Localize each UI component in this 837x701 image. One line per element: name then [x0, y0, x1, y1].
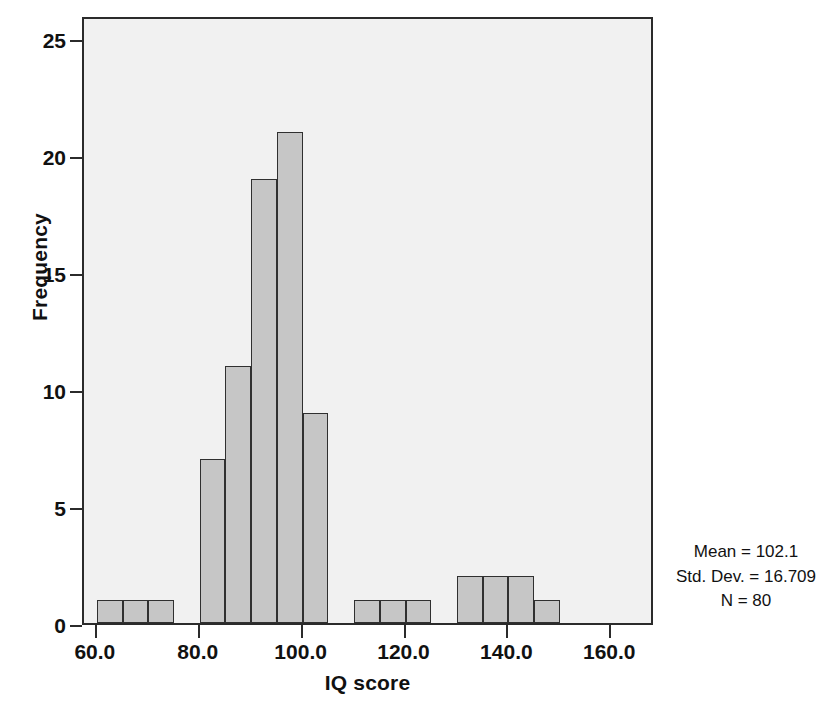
y-axis-tick-label: 20 [43, 147, 66, 168]
histogram-figure: Frequency 0510152025 IQ score 60.080.010… [0, 0, 837, 701]
y-axis-tick-label: 15 [43, 264, 66, 285]
histogram-bar [406, 600, 432, 623]
histogram-bar [277, 132, 303, 623]
x-axis-tick-mark [404, 625, 406, 638]
x-axis-tick-mark [95, 625, 97, 638]
histogram-bar [148, 600, 174, 623]
stat-std-dev: Std. Dev. = 16.709 [660, 565, 832, 590]
x-axis-tick-label: 160.0 [583, 641, 636, 662]
x-axis: IQ score 60.080.0100.0120.0140.0160.0 [0, 625, 837, 701]
x-axis-tick-label: 140.0 [480, 641, 533, 662]
histogram-bar [97, 600, 123, 623]
histogram-bar [508, 576, 534, 623]
plot-area [82, 17, 653, 625]
x-axis-tick-label: 80.0 [177, 641, 218, 662]
histogram-bar [123, 600, 149, 623]
stat-n: N = 80 [660, 589, 832, 614]
histogram-bar [483, 576, 509, 623]
histogram-bar [200, 459, 226, 623]
y-axis-tick-mark [70, 508, 82, 510]
y-axis-tick-mark [70, 157, 82, 159]
y-axis-tick-mark [70, 40, 82, 42]
x-axis-tick-label: 100.0 [274, 641, 327, 662]
x-axis-tick-mark [301, 625, 303, 638]
x-axis-tick-mark [609, 625, 611, 638]
histogram-bar [303, 413, 329, 623]
bars-layer [84, 19, 651, 623]
y-axis: Frequency 0510152025 [0, 0, 82, 701]
y-axis-tick-label: 10 [43, 381, 66, 402]
statistics-annotation: Mean = 102.1 Std. Dev. = 16.709 N = 80 [660, 540, 832, 614]
x-axis-tick-mark [198, 625, 200, 638]
stat-mean: Mean = 102.1 [660, 540, 832, 565]
histogram-bar [457, 576, 483, 623]
histogram-bar [534, 600, 560, 623]
y-axis-tick-label: 25 [43, 30, 66, 51]
y-axis-tick-label: 5 [54, 498, 66, 519]
histogram-bar [251, 179, 277, 623]
x-axis-tick-label: 120.0 [377, 641, 430, 662]
y-axis-tick-mark [70, 274, 82, 276]
x-axis-tick-mark [506, 625, 508, 638]
y-axis-tick-mark [70, 391, 82, 393]
histogram-bar [354, 600, 380, 623]
histogram-bar [380, 600, 406, 623]
x-axis-tick-label: 60.0 [74, 641, 115, 662]
x-axis-title: IQ score [82, 671, 653, 695]
histogram-bar [225, 366, 251, 623]
